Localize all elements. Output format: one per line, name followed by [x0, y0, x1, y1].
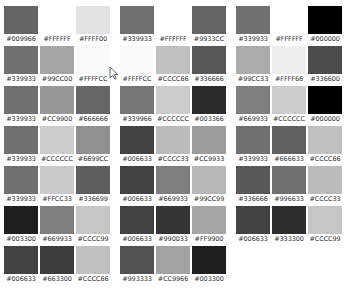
- swatch-color-box[interactable]: [236, 126, 270, 154]
- color-swatch[interactable]: #993333: [120, 246, 154, 274]
- color-swatch[interactable]: #000000: [308, 6, 342, 34]
- swatch-color-box[interactable]: [40, 46, 74, 74]
- color-swatch[interactable]: #663300: [40, 246, 74, 274]
- color-swatch[interactable]: #003300: [4, 206, 38, 234]
- color-swatch[interactable]: #339933: [236, 6, 270, 34]
- color-swatch[interactable]: #CCCC33: [308, 166, 342, 194]
- swatch-color-box[interactable]: [120, 206, 154, 234]
- color-swatch[interactable]: #339933: [4, 46, 38, 74]
- color-swatch[interactable]: #669933: [156, 166, 190, 194]
- swatch-color-box[interactable]: [156, 206, 190, 234]
- color-swatch[interactable]: #006633: [120, 166, 154, 194]
- swatch-color-box[interactable]: [76, 246, 110, 274]
- color-swatch[interactable]: #339933: [236, 126, 270, 154]
- swatch-color-box[interactable]: [272, 126, 306, 154]
- color-swatch[interactable]: #FFFFCC: [76, 46, 110, 74]
- color-swatch[interactable]: #336666: [236, 166, 270, 194]
- color-swatch[interactable]: #9933CC: [192, 6, 226, 34]
- swatch-color-box[interactable]: [236, 86, 270, 114]
- color-swatch[interactable]: #CC9966: [156, 246, 190, 274]
- swatch-color-box[interactable]: [120, 86, 154, 114]
- color-swatch[interactable]: #990033: [156, 206, 190, 234]
- color-swatch[interactable]: #FFFFCC: [120, 46, 154, 74]
- color-swatch[interactable]: #CCCCCC: [40, 126, 74, 154]
- swatch-color-box[interactable]: [120, 166, 154, 194]
- swatch-color-box[interactable]: [40, 86, 74, 114]
- color-swatch[interactable]: #CC9933: [192, 126, 226, 154]
- swatch-color-box[interactable]: [272, 46, 306, 74]
- swatch-color-box[interactable]: [308, 6, 342, 34]
- color-swatch[interactable]: #FFFF66: [272, 46, 306, 74]
- swatch-color-box[interactable]: [156, 6, 190, 34]
- swatch-color-box[interactable]: [308, 166, 342, 194]
- color-swatch[interactable]: #FFFFFF: [156, 6, 190, 34]
- swatch-color-box[interactable]: [156, 166, 190, 194]
- color-swatch[interactable]: #336600: [308, 46, 342, 74]
- swatch-color-box[interactable]: [76, 86, 110, 114]
- color-swatch[interactable]: #CCCC99: [76, 206, 110, 234]
- swatch-color-box[interactable]: [156, 46, 190, 74]
- swatch-color-box[interactable]: [272, 166, 306, 194]
- color-swatch[interactable]: #996633: [272, 166, 306, 194]
- swatch-color-box[interactable]: [40, 166, 74, 194]
- swatch-color-box[interactable]: [4, 246, 38, 274]
- swatch-color-box[interactable]: [272, 6, 306, 34]
- color-swatch[interactable]: #339933: [120, 6, 154, 34]
- swatch-color-box[interactable]: [76, 166, 110, 194]
- color-swatch[interactable]: #006633: [236, 206, 270, 234]
- swatch-color-box[interactable]: [120, 6, 154, 34]
- swatch-color-box[interactable]: [192, 86, 226, 114]
- color-swatch[interactable]: #339966: [120, 86, 154, 114]
- color-swatch[interactable]: #FFCC33: [40, 166, 74, 194]
- swatch-color-box[interactable]: [236, 6, 270, 34]
- color-swatch[interactable]: #CCCC33: [156, 126, 190, 154]
- color-swatch[interactable]: #339933: [4, 166, 38, 194]
- color-swatch[interactable]: #666633: [272, 126, 306, 154]
- swatch-color-box[interactable]: [192, 166, 226, 194]
- swatch-color-box[interactable]: [120, 246, 154, 274]
- swatch-color-box[interactable]: [236, 46, 270, 74]
- swatch-color-box[interactable]: [4, 6, 38, 34]
- swatch-color-box[interactable]: [192, 126, 226, 154]
- swatch-color-box[interactable]: [40, 6, 74, 34]
- swatch-color-box[interactable]: [156, 126, 190, 154]
- swatch-color-box[interactable]: [76, 6, 110, 34]
- color-swatch[interactable]: #FFFFFF: [272, 6, 306, 34]
- color-swatch[interactable]: #666666: [76, 86, 110, 114]
- color-swatch[interactable]: #339933: [4, 86, 38, 114]
- swatch-color-box[interactable]: [192, 46, 226, 74]
- swatch-color-box[interactable]: [76, 126, 110, 154]
- swatch-color-box[interactable]: [156, 86, 190, 114]
- color-swatch[interactable]: #CCCC66: [76, 246, 110, 274]
- color-swatch[interactable]: #336699: [76, 166, 110, 194]
- swatch-color-box[interactable]: [272, 86, 306, 114]
- swatch-color-box[interactable]: [4, 126, 38, 154]
- color-swatch[interactable]: #000000: [308, 86, 342, 114]
- color-swatch[interactable]: #006633: [120, 206, 154, 234]
- color-swatch[interactable]: #006633: [120, 126, 154, 154]
- swatch-color-box[interactable]: [4, 86, 38, 114]
- color-swatch[interactable]: #CCCCCC: [272, 86, 306, 114]
- color-swatch[interactable]: #669933: [40, 206, 74, 234]
- color-swatch[interactable]: #99CC99: [192, 166, 226, 194]
- color-swatch[interactable]: #CCCC66: [308, 126, 342, 154]
- color-swatch[interactable]: #FFFFFF: [40, 6, 74, 34]
- swatch-color-box[interactable]: [40, 126, 74, 154]
- color-swatch[interactable]: #FFFF00: [76, 6, 110, 34]
- color-swatch[interactable]: #99CC00: [40, 46, 74, 74]
- swatch-color-box[interactable]: [156, 246, 190, 274]
- swatch-color-box[interactable]: [4, 166, 38, 194]
- color-swatch[interactable]: #009966: [4, 6, 38, 34]
- swatch-color-box[interactable]: [40, 206, 74, 234]
- swatch-color-box[interactable]: [120, 126, 154, 154]
- color-swatch[interactable]: #6699CC: [76, 126, 110, 154]
- color-swatch[interactable]: #99CC33: [236, 46, 270, 74]
- swatch-color-box[interactable]: [236, 166, 270, 194]
- color-swatch[interactable]: #339933: [4, 126, 38, 154]
- color-swatch[interactable]: #CCCC66: [156, 46, 190, 74]
- color-swatch[interactable]: #CCCCCC: [156, 86, 190, 114]
- color-swatch[interactable]: #003300: [192, 246, 226, 274]
- color-swatch[interactable]: #003366: [192, 86, 226, 114]
- swatch-color-box[interactable]: [76, 206, 110, 234]
- swatch-color-box[interactable]: [192, 246, 226, 274]
